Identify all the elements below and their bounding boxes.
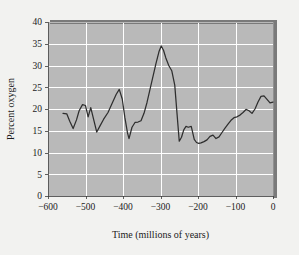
ytick-label-35: 35 (33, 39, 43, 49)
xtick-label--300: −300 (151, 202, 171, 212)
xtick-label--200: −200 (188, 202, 208, 212)
ytick-label-30: 30 (33, 61, 43, 71)
xtick-label--600: −600 (38, 202, 58, 212)
ytick-label-5: 5 (37, 170, 42, 180)
ytick-label-40: 40 (33, 17, 43, 27)
xtick-label--500: −500 (76, 202, 96, 212)
xtick-label--100: −100 (226, 202, 246, 212)
y-axis-title: Percent oxygen (5, 78, 16, 140)
chart-figure: −600−500−400−300−200−1000 05101520253035… (0, 0, 299, 255)
oxygen-line-chart: −600−500−400−300−200−1000 05101520253035… (0, 0, 299, 255)
xtick-label--400: −400 (113, 202, 133, 212)
ytick-label-15: 15 (33, 126, 43, 136)
plot-right-shadow (273, 20, 277, 198)
xtick-label-0: 0 (271, 202, 276, 212)
ytick-label-10: 10 (33, 148, 43, 158)
ytick-label-20: 20 (33, 104, 43, 114)
ytick-label-25: 25 (33, 83, 43, 93)
x-axis-title: Time (millions of years) (112, 229, 209, 241)
ytick-label-0: 0 (37, 191, 42, 201)
